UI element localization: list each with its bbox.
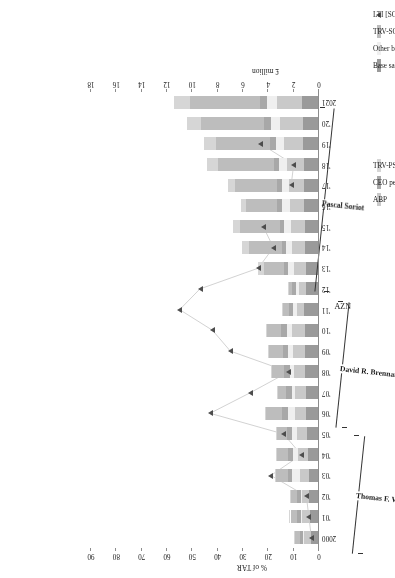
bar-segment-other-benefits bbox=[288, 407, 295, 420]
category-label: '12 bbox=[322, 285, 341, 293]
bar-segment-other-benefits bbox=[303, 531, 304, 544]
bar-segment-trv-psp-dabp bbox=[277, 386, 278, 399]
bar-segment-abp bbox=[295, 386, 306, 399]
category-label: '20 bbox=[322, 119, 341, 127]
tenure-bracket-cap bbox=[354, 435, 359, 436]
right-axis-tick-label: 10 bbox=[287, 552, 301, 560]
bar-segment-ceo-pension bbox=[282, 407, 288, 420]
bar-segment-ceo-pension bbox=[261, 96, 268, 109]
tenure-bracket-cap bbox=[358, 553, 363, 554]
bar-segment-other-benefits bbox=[301, 510, 303, 523]
lti-percent-marker bbox=[177, 307, 182, 313]
bar-row bbox=[91, 220, 319, 233]
bar-segment-trv-psp-dabp bbox=[174, 96, 190, 109]
lti-percent-marker bbox=[256, 265, 261, 271]
bar-row bbox=[91, 137, 319, 150]
right-axis-tick-label: 20 bbox=[261, 552, 275, 560]
bar-segment-abp bbox=[292, 324, 304, 337]
bar-segment-trv-sop bbox=[278, 386, 287, 399]
legend-label-other-benefits: Other benefits bbox=[373, 45, 395, 53]
bar-segment-trv-sop bbox=[246, 200, 277, 213]
bar-segment-abp bbox=[280, 117, 303, 130]
bar-segment-base-salary bbox=[305, 241, 319, 254]
left-axis-tick-label: 18 bbox=[85, 80, 97, 88]
category-label: '01 bbox=[322, 513, 341, 521]
bar-row bbox=[91, 200, 319, 213]
bar-row bbox=[91, 490, 319, 503]
bar-row bbox=[91, 179, 319, 192]
bar-segment-other-benefits bbox=[293, 448, 299, 461]
bar-segment-abp bbox=[295, 407, 306, 420]
right-axis-tick bbox=[293, 548, 294, 551]
right-axis-tick-label: 30 bbox=[236, 552, 250, 560]
category-label: '19 bbox=[322, 140, 341, 148]
bar-segment-abp bbox=[290, 200, 304, 213]
left-axis-tick bbox=[116, 89, 117, 92]
bar-row bbox=[91, 262, 319, 275]
bar-row bbox=[91, 158, 319, 171]
tenure-bracket-label: David R. Brennan bbox=[339, 364, 395, 379]
tenure-bracket-cap bbox=[320, 107, 325, 108]
bar-segment-abp bbox=[293, 345, 305, 358]
left-axis-tick-label: 10 bbox=[186, 80, 198, 88]
bar-row bbox=[91, 448, 319, 461]
category-label: 2021 bbox=[322, 98, 341, 106]
bar-segment-abp bbox=[294, 365, 306, 378]
lti-percent-marker bbox=[289, 182, 294, 188]
category-label: '14 bbox=[322, 243, 341, 251]
bar-segment-trv-sop bbox=[289, 282, 292, 295]
bar-segment-base-salary bbox=[303, 137, 319, 150]
category-label: '16 bbox=[322, 202, 341, 210]
bar-segment-trv-psp-dabp bbox=[204, 137, 215, 150]
bar-segment-ceo-pension bbox=[300, 531, 303, 544]
bar-segment-trv-sop bbox=[283, 303, 289, 316]
bar-segment-base-salary bbox=[304, 158, 319, 171]
bar-segment-trv-psp-dabp bbox=[266, 324, 267, 337]
left-axis-tick-label: 12 bbox=[161, 80, 173, 88]
right-axis-tick-label: 90 bbox=[84, 552, 98, 560]
bar-row bbox=[91, 510, 319, 523]
bar-segment-other-benefits bbox=[267, 96, 277, 109]
lti-percent-marker bbox=[291, 162, 296, 168]
right-axis-tick-label: 0 bbox=[312, 552, 326, 560]
bar-row bbox=[91, 324, 319, 337]
legend-label-ceo-pension: CEO pension bbox=[373, 179, 395, 187]
bar-segment-abp bbox=[299, 282, 306, 295]
bar-segment-trv-sop bbox=[266, 407, 282, 420]
left-axis-tick-label: 0 bbox=[313, 80, 325, 88]
category-label: '13 bbox=[322, 264, 341, 272]
bar-segment-trv-sop bbox=[218, 158, 274, 171]
bar-segment-abp bbox=[277, 96, 302, 109]
legend-label-trv-psp-dabp: TRV-PSP/DABP bbox=[373, 162, 395, 170]
bar-segment-ceo-pension bbox=[283, 345, 289, 358]
bar-segment-base-salary bbox=[304, 179, 319, 192]
left-axis-tick bbox=[293, 89, 294, 92]
bar-segment-other-benefits bbox=[289, 345, 293, 358]
plot-area bbox=[91, 92, 319, 548]
bar-segment-trv-sop bbox=[277, 448, 288, 461]
left-axis-tick bbox=[90, 89, 91, 92]
bar-segment-base-salary bbox=[304, 303, 319, 316]
bar-segment-base-salary bbox=[306, 407, 319, 420]
bar-segment-trv-psp-dabp bbox=[276, 448, 277, 461]
bar-segment-trv-sop bbox=[267, 324, 282, 337]
rotated-figure-wrapper: Base salaryOther benefitsTRV-SOP [AZSOP/… bbox=[0, 0, 395, 578]
left-axis-tick bbox=[166, 89, 167, 92]
bar-segment-ceo-pension bbox=[288, 448, 293, 461]
category-label: '18 bbox=[322, 161, 341, 169]
bar-row bbox=[91, 345, 319, 358]
lti-percent-marker bbox=[271, 245, 276, 251]
lti-percent-marker bbox=[304, 493, 309, 499]
bar-segment-base-salary bbox=[304, 200, 319, 213]
axis-title-pounds: £ million bbox=[252, 67, 279, 76]
bar-segment-base-salary bbox=[302, 96, 319, 109]
bar-row bbox=[91, 282, 319, 295]
bar-segment-trv-sop bbox=[249, 241, 282, 254]
left-axis-tick-label: 2 bbox=[288, 80, 300, 88]
bar-segment-ceo-pension bbox=[274, 158, 280, 171]
left-axis-tick bbox=[318, 89, 319, 92]
right-axis-tick-label: 40 bbox=[211, 552, 225, 560]
lti-percent-marker bbox=[268, 473, 273, 479]
bar-segment-trv-sop bbox=[264, 262, 284, 275]
bar-segment-trv-sop bbox=[272, 365, 284, 378]
